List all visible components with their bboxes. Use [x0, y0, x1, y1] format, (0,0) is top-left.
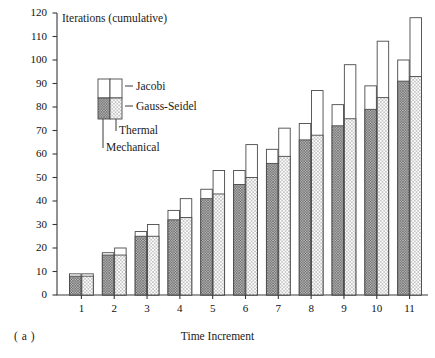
bar-segment-gauss-seidel-thermal — [180, 217, 192, 295]
y-axis-tick-label: 80 — [21, 101, 47, 112]
bar-segment-gauss-seidel-mechanical — [398, 81, 410, 295]
bar-segment-gauss-seidel-thermal — [115, 255, 127, 295]
y-axis-tick-label: 110 — [21, 31, 47, 42]
bar-segment-gauss-seidel-thermal — [213, 194, 225, 295]
bar-segment-gauss-seidel-mechanical — [234, 185, 246, 295]
legend-swatch-mechanical-jacobi — [98, 79, 110, 98]
legend-label-jacobi: Jacobi — [136, 80, 165, 92]
x-axis-tick-label: 11 — [401, 303, 419, 314]
y-axis-title: Iterations (cumulative) — [62, 12, 167, 24]
y-axis-tick-label: 60 — [21, 148, 47, 159]
bar-segment-gauss-seidel-mechanical — [332, 126, 344, 295]
x-axis-tick-label: 8 — [302, 303, 320, 314]
x-axis-tick-label: 2 — [105, 303, 123, 314]
legend-label-thermal: Thermal — [119, 124, 158, 136]
legend-label-mechanical: Mechanical — [106, 141, 160, 153]
x-axis-tick-label: 5 — [204, 303, 222, 314]
x-axis-tick-label: 9 — [335, 303, 353, 314]
legend-swatch-thermal-jacobi — [110, 79, 122, 98]
x-axis-tick-label: 4 — [171, 303, 189, 314]
bar-segment-gauss-seidel-mechanical — [266, 163, 278, 295]
bar-segment-gauss-seidel-thermal — [410, 76, 422, 295]
x-axis-title: Time Increment — [0, 330, 435, 342]
bar-segment-gauss-seidel-mechanical — [365, 109, 377, 295]
legend-swatch-mechanical-gauss-seidel — [98, 98, 110, 119]
bar-segment-gauss-seidel-mechanical — [168, 220, 180, 295]
y-axis-tick-label: 90 — [21, 78, 47, 89]
bar-segment-gauss-seidel-thermal — [279, 156, 291, 295]
bar-segment-gauss-seidel-thermal — [377, 98, 389, 295]
x-axis-tick-label: 3 — [138, 303, 156, 314]
y-axis-tick-label: 50 — [21, 172, 47, 183]
x-axis-tick-label: 6 — [237, 303, 255, 314]
legend-swatch-thermal-gauss-seidel — [110, 98, 122, 119]
y-axis-tick-label: 120 — [21, 7, 47, 18]
bar-segment-gauss-seidel-thermal — [344, 119, 356, 295]
x-axis-tick-label: 10 — [368, 303, 386, 314]
bar-segment-gauss-seidel-thermal — [147, 236, 159, 295]
y-axis-tick-label: 30 — [21, 219, 47, 230]
bar-segment-gauss-seidel-thermal — [246, 178, 258, 296]
y-axis-tick-label: 0 — [21, 289, 47, 300]
x-axis-tick-label: 1 — [72, 303, 90, 314]
y-axis-tick-label: 100 — [21, 54, 47, 65]
bar-segment-gauss-seidel-mechanical — [70, 276, 82, 295]
legend-label-gauss-seidel: Gauss-Seidel — [136, 100, 197, 112]
bar-segment-gauss-seidel-mechanical — [135, 236, 147, 295]
figure-caption: ( a ) — [14, 330, 35, 342]
chart-figure: Iterations (cumulative) Time Increment (… — [0, 0, 435, 358]
x-axis-tick-label: 7 — [269, 303, 287, 314]
bar-segment-gauss-seidel-mechanical — [102, 255, 114, 295]
bar-segment-gauss-seidel-thermal — [82, 276, 94, 295]
y-axis-tick-label: 40 — [21, 195, 47, 206]
y-axis-tick-label: 20 — [21, 242, 47, 253]
bar-segment-gauss-seidel-thermal — [312, 135, 324, 295]
bar-segment-gauss-seidel-mechanical — [299, 140, 311, 295]
bar-segment-gauss-seidel-mechanical — [201, 199, 213, 295]
y-axis-tick-label: 70 — [21, 125, 47, 136]
y-axis-tick-label: 10 — [21, 266, 47, 277]
